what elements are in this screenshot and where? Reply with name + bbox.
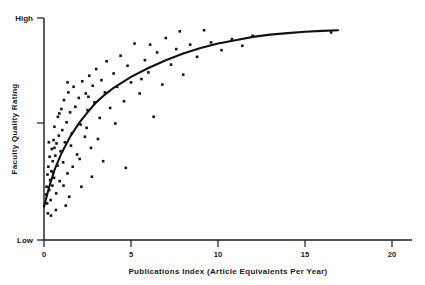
data-point xyxy=(65,121,68,124)
data-point xyxy=(152,115,155,118)
data-point xyxy=(79,123,82,126)
data-point xyxy=(72,86,75,89)
data-point xyxy=(68,195,71,198)
data-point xyxy=(98,117,101,120)
data-point xyxy=(156,51,159,54)
data-point xyxy=(47,165,50,168)
data-point xyxy=(57,134,60,137)
data-point xyxy=(71,132,74,135)
data-point xyxy=(49,179,52,182)
data-points-layer xyxy=(45,29,333,217)
data-point xyxy=(114,122,117,125)
data-point xyxy=(196,56,199,59)
data-point xyxy=(147,71,150,74)
data-point xyxy=(62,184,65,187)
data-point xyxy=(100,79,103,82)
data-point xyxy=(95,68,98,71)
data-point xyxy=(189,43,192,46)
data-point xyxy=(80,185,83,188)
data-point xyxy=(55,209,58,212)
data-point xyxy=(138,92,141,95)
x-axis-title: Publications Index (Article Equivalents … xyxy=(128,267,327,276)
data-point xyxy=(123,100,126,103)
data-point xyxy=(178,30,181,33)
data-point xyxy=(53,125,56,128)
data-point xyxy=(84,135,87,138)
data-point xyxy=(133,42,136,45)
data-point xyxy=(91,175,94,178)
data-point xyxy=(67,91,70,94)
data-point xyxy=(52,139,55,142)
data-point xyxy=(51,160,54,163)
data-point xyxy=(86,109,89,112)
data-point xyxy=(210,41,213,44)
fit-curve-layer xyxy=(44,30,338,206)
data-point xyxy=(49,199,52,202)
data-point xyxy=(66,81,69,84)
y-axis-title: Faculty Quality Rating xyxy=(10,83,19,174)
data-point xyxy=(130,81,133,84)
data-point xyxy=(51,184,54,187)
data-point xyxy=(252,34,255,37)
data-point xyxy=(71,165,74,168)
fit-curve xyxy=(44,30,338,206)
data-point xyxy=(85,127,88,130)
data-point xyxy=(170,63,173,66)
data-point xyxy=(46,202,49,205)
x-tick-label-0: 0 xyxy=(42,250,46,259)
data-point xyxy=(58,112,61,115)
data-point xyxy=(51,148,54,151)
data-point xyxy=(102,160,105,163)
data-point xyxy=(69,111,72,114)
y-axis-high-label: High xyxy=(15,14,33,23)
data-point xyxy=(48,189,51,192)
data-point xyxy=(90,147,93,150)
data-point xyxy=(50,214,53,217)
scatter-plot: 0 5 10 15 20 High Low Faculty Quality Ra… xyxy=(0,0,425,285)
data-point xyxy=(88,74,91,77)
data-point xyxy=(48,155,51,158)
data-point xyxy=(74,106,77,109)
data-point xyxy=(161,83,164,86)
data-point xyxy=(76,153,79,156)
data-point xyxy=(78,97,81,100)
x-tick-label-5: 5 xyxy=(129,250,133,259)
data-point xyxy=(119,54,122,57)
data-point xyxy=(109,107,112,110)
data-point xyxy=(149,43,152,46)
x-tick-label-10: 10 xyxy=(214,250,222,259)
data-point xyxy=(330,31,333,34)
data-point xyxy=(91,84,94,87)
data-point xyxy=(87,96,90,99)
data-point xyxy=(46,173,49,176)
data-point xyxy=(64,141,67,144)
data-point xyxy=(220,49,223,52)
data-point xyxy=(97,138,100,141)
x-axis-ticks xyxy=(44,240,392,247)
data-point xyxy=(124,167,127,170)
data-point xyxy=(62,161,65,164)
data-point xyxy=(45,193,48,196)
data-point xyxy=(61,129,64,132)
data-point xyxy=(66,172,69,175)
data-point xyxy=(48,141,51,144)
data-point xyxy=(241,44,244,47)
data-point xyxy=(56,164,59,167)
data-point xyxy=(45,185,48,188)
data-point xyxy=(165,37,168,40)
data-point xyxy=(93,101,96,104)
x-tick-labels: 0 5 10 15 20 xyxy=(42,250,396,259)
data-point xyxy=(57,115,60,118)
data-point xyxy=(144,59,147,62)
data-point xyxy=(78,158,81,161)
data-point xyxy=(126,64,129,67)
data-point xyxy=(81,80,84,83)
y-axis-low-label: Low xyxy=(17,236,34,245)
data-point xyxy=(58,180,61,183)
data-point xyxy=(231,38,234,41)
data-point xyxy=(64,204,67,207)
data-point xyxy=(54,154,57,157)
data-point xyxy=(84,92,87,95)
data-point xyxy=(55,142,58,145)
axis-lines xyxy=(44,18,412,240)
